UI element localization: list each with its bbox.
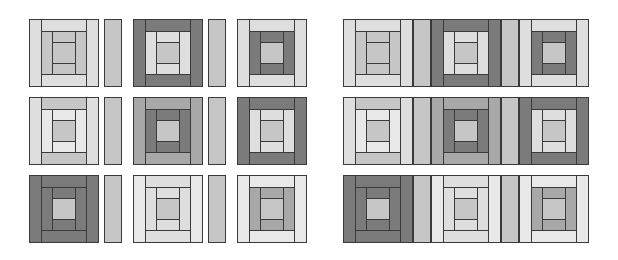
inner-bottom-log [366, 219, 390, 231]
inner-bottom-log [366, 63, 390, 75]
center-square [454, 42, 478, 64]
outer-right-log [488, 175, 501, 243]
inner-right-log [179, 187, 191, 231]
outer-bottom-log [145, 74, 191, 87]
inner-right-log [389, 187, 401, 231]
sashing-strip [104, 175, 122, 243]
inner-bottom-log [52, 219, 76, 231]
outer-right-log [294, 97, 307, 165]
outer-bottom-log [531, 152, 577, 165]
inner-right-log [75, 109, 87, 153]
center-square [52, 198, 76, 220]
inner-bottom-log [156, 63, 180, 75]
inner-bottom-log [542, 219, 566, 231]
center-square [52, 120, 76, 142]
inner-right-log [283, 109, 295, 153]
sashing-strip [501, 175, 519, 243]
center-square [52, 42, 76, 64]
inner-bottom-log [542, 63, 566, 75]
outer-bottom-log [145, 152, 191, 165]
sashing-strip [501, 19, 519, 87]
outer-bottom-log [355, 74, 401, 87]
inner-right-log [75, 31, 87, 75]
log-cabin-block [343, 97, 413, 165]
outer-bottom-log [249, 230, 295, 243]
outer-right-log [400, 19, 413, 87]
sashing-strip [413, 97, 431, 165]
inner-right-log [179, 109, 191, 153]
inner-bottom-log [156, 219, 180, 231]
outer-right-log [190, 19, 203, 87]
outer-right-log [576, 175, 589, 243]
center-square [542, 120, 566, 142]
center-square [156, 42, 180, 64]
inner-bottom-log [52, 141, 76, 153]
inner-right-log [389, 109, 401, 153]
log-cabin-block [431, 19, 501, 87]
outer-bottom-log [531, 74, 577, 87]
inner-right-log [75, 187, 87, 231]
outer-bottom-log [41, 230, 87, 243]
sashing-strip [501, 97, 519, 165]
inner-bottom-log [366, 141, 390, 153]
outer-bottom-log [355, 152, 401, 165]
sashing-strip [413, 19, 431, 87]
outer-right-log [86, 175, 99, 243]
outer-bottom-log [249, 152, 295, 165]
log-cabin-block [431, 97, 501, 165]
inner-bottom-log [156, 141, 180, 153]
center-square [454, 120, 478, 142]
outer-right-log [576, 19, 589, 87]
outer-right-log [400, 175, 413, 243]
inner-bottom-log [260, 219, 284, 231]
sashing-strip [104, 97, 122, 165]
outer-bottom-log [41, 152, 87, 165]
inner-right-log [283, 31, 295, 75]
inner-bottom-log [52, 63, 76, 75]
outer-bottom-log [355, 230, 401, 243]
outer-bottom-log [145, 230, 191, 243]
inner-right-log [477, 109, 489, 153]
log-cabin-block [237, 97, 307, 165]
outer-right-log [294, 175, 307, 243]
inner-right-log [565, 109, 577, 153]
sashing-strip [208, 175, 226, 243]
center-square [156, 120, 180, 142]
outer-bottom-log [531, 230, 577, 243]
log-cabin-block [343, 175, 413, 243]
inner-bottom-log [542, 141, 566, 153]
outer-right-log [86, 97, 99, 165]
center-square [260, 198, 284, 220]
log-cabin-block [29, 175, 99, 243]
log-cabin-block [29, 97, 99, 165]
sashing-strip [104, 19, 122, 87]
center-square [156, 198, 180, 220]
inner-right-log [477, 31, 489, 75]
inner-right-log [565, 187, 577, 231]
outer-right-log [576, 97, 589, 165]
quilt-diagram [0, 0, 618, 260]
sashing-strip [413, 175, 431, 243]
inner-bottom-log [260, 63, 284, 75]
inner-right-log [565, 31, 577, 75]
log-cabin-block [343, 19, 413, 87]
outer-bottom-log [443, 152, 489, 165]
center-square [542, 198, 566, 220]
log-cabin-block [133, 97, 203, 165]
outer-right-log [190, 97, 203, 165]
outer-right-log [488, 19, 501, 87]
center-square [454, 198, 478, 220]
center-square [366, 198, 390, 220]
inner-bottom-log [454, 219, 478, 231]
sashing-strip [208, 19, 226, 87]
log-cabin-block [519, 19, 589, 87]
inner-bottom-log [454, 141, 478, 153]
log-cabin-block [237, 19, 307, 87]
inner-bottom-log [454, 63, 478, 75]
center-square [260, 42, 284, 64]
center-square [542, 42, 566, 64]
outer-bottom-log [249, 74, 295, 87]
log-cabin-block [29, 19, 99, 87]
center-square [366, 42, 390, 64]
center-square [260, 120, 284, 142]
